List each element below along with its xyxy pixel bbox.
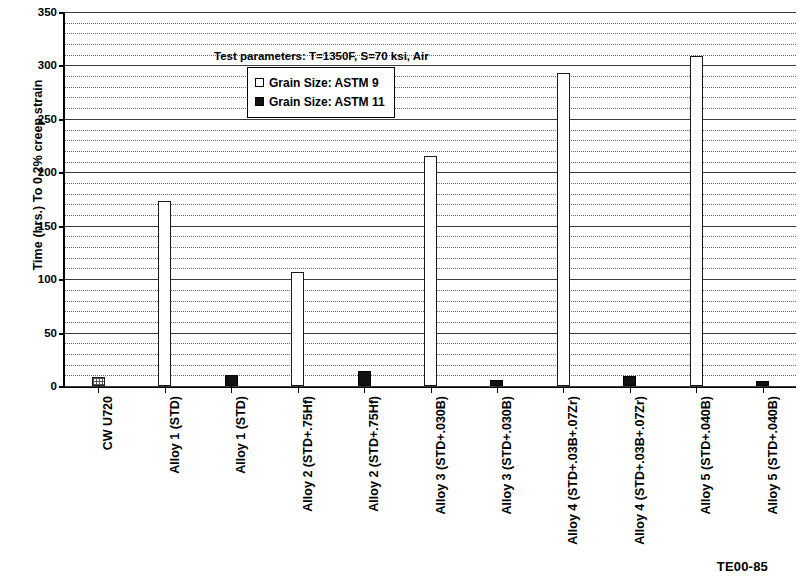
y-tick-mark <box>59 386 65 388</box>
gridline-minor <box>65 23 796 24</box>
y-tick-mark <box>59 12 65 14</box>
y-tick-label: 300 <box>21 59 57 71</box>
y-tick-mark <box>59 279 65 281</box>
x-axis-label: Alloy 3 (STD+.030B) <box>500 396 514 584</box>
y-tick-mark <box>59 226 65 228</box>
test-parameters-annotation: Test parameters: T=1350F, S=70 ksi, Air <box>214 50 429 62</box>
x-axis-label: Alloy 1 (STD) <box>168 396 182 584</box>
x-axis-label: CW U720 <box>101 396 115 584</box>
x-tick-mark <box>763 386 764 393</box>
x-tick-mark <box>165 386 166 393</box>
gridline-minor <box>65 76 796 77</box>
y-tick-label: 350 <box>21 6 57 18</box>
bar <box>557 73 570 386</box>
x-tick-mark <box>98 386 99 393</box>
bar <box>690 56 703 386</box>
x-axis-label: Alloy 1 (STD) <box>234 396 248 584</box>
gridline-major <box>65 12 796 13</box>
x-tick-mark <box>231 386 232 393</box>
x-tick-mark <box>497 386 498 393</box>
x-axis-label: Alloy 2 (STD+.75Hf) <box>367 396 381 584</box>
y-tick-mark <box>59 119 65 121</box>
x-tick-mark <box>563 386 564 393</box>
bar <box>623 376 636 386</box>
gridline-minor <box>65 108 796 109</box>
bar <box>158 201 171 386</box>
y-tick-label: 150 <box>21 220 57 232</box>
x-tick-mark <box>364 386 365 393</box>
gridline-minor <box>65 130 796 131</box>
legend-label-astm11: Grain Size: ASTM 11 <box>269 95 385 109</box>
y-tick-mark <box>59 333 65 335</box>
y-tick-mark <box>59 65 65 67</box>
creep-strain-bar-chart: Time (hrs.) To 0.2% creep strain Test pa… <box>0 0 804 584</box>
gridline-minor <box>65 55 796 56</box>
gridline-minor <box>65 140 796 141</box>
y-tick-label: 0 <box>21 380 57 392</box>
gridline-major <box>65 119 796 120</box>
x-axis-label: Alloy 3 (STD+.030B) <box>434 396 448 584</box>
legend-entry-astm11: Grain Size: ASTM 11 <box>255 92 385 111</box>
x-tick-mark <box>696 386 697 393</box>
gridline-minor <box>65 33 796 34</box>
bar <box>291 272 304 386</box>
gridline-minor <box>65 44 796 45</box>
x-axis-label: Alloy 5 (STD+.040B) <box>766 396 780 584</box>
gridline-minor <box>65 151 796 152</box>
y-tick-label: 50 <box>21 327 57 339</box>
y-tick-mark <box>59 172 65 174</box>
bar <box>424 156 437 386</box>
x-axis-label: Alloy 5 (STD+.040B) <box>699 396 713 584</box>
y-tick-label: 100 <box>21 273 57 285</box>
x-axis-label: Alloy 4 (STD+.03B+.07Zr) <box>633 396 647 584</box>
x-axis-label: Alloy 2 (STD+.75Hf) <box>301 396 315 584</box>
legend-entry-astm9: Grain Size: ASTM 9 <box>255 73 385 92</box>
legend-swatch-astm9-icon <box>255 78 264 87</box>
plot-area <box>63 12 796 388</box>
gridline-minor <box>65 87 796 88</box>
x-tick-mark <box>298 386 299 393</box>
bar <box>92 377 105 386</box>
figure-code: TE00-85 <box>717 559 768 574</box>
y-tick-label: 250 <box>21 113 57 125</box>
legend: Grain Size: ASTM 9 Grain Size: ASTM 11 <box>247 67 395 118</box>
bar <box>358 371 371 386</box>
y-tick-label: 200 <box>21 166 57 178</box>
legend-swatch-astm11-icon <box>255 97 264 106</box>
x-tick-mark <box>431 386 432 393</box>
gridline-major <box>65 65 796 66</box>
bar <box>225 375 238 386</box>
x-tick-mark <box>630 386 631 393</box>
legend-label-astm9: Grain Size: ASTM 9 <box>269 76 379 90</box>
x-axis-label: Alloy 4 (STD+.03B+.07Zr) <box>566 396 580 584</box>
gridline-minor <box>65 97 796 98</box>
